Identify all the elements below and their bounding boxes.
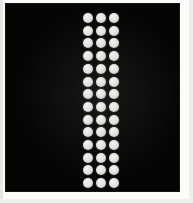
dot [96,38,106,48]
edge-shade-left [0,0,3,203]
dot [96,26,106,36]
dot [83,77,93,87]
figure-root: Black rectangular field containing a ver… [0,0,193,203]
dot [109,165,119,175]
dot [109,153,119,163]
dot [109,51,119,61]
dot [83,13,93,23]
dot [96,165,106,175]
dot [96,127,106,137]
dot [109,102,119,112]
dot [109,89,119,99]
dot [109,178,119,188]
dot [96,51,106,61]
dot [83,115,93,125]
dot [83,178,93,188]
dot [96,178,106,188]
dot [109,127,119,137]
dot [83,38,93,48]
dot [109,64,119,74]
dot [96,153,106,163]
dot [83,165,93,175]
dot [96,89,106,99]
dot [83,89,93,99]
dot [83,26,93,36]
dot [96,115,106,125]
dot [83,153,93,163]
dot [83,127,93,137]
dot [96,140,106,150]
edge-shade-bottom [0,199,193,203]
dot [109,77,119,87]
dot [109,26,119,36]
dark-field [6,4,179,191]
dot-grid [6,4,179,191]
dot [96,77,106,87]
edge-shade-right [189,0,193,203]
dot [109,140,119,150]
dot [96,64,106,74]
dot [83,51,93,61]
dot [109,115,119,125]
dot [83,102,93,112]
dot [96,102,106,112]
dot [109,38,119,48]
dot [96,13,106,23]
dot [83,140,93,150]
dot [83,64,93,74]
dot [109,13,119,23]
